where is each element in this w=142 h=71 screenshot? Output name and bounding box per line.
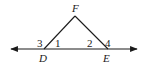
- triangle-diagram: F D E 3 1 2 4: [0, 0, 142, 71]
- angle-label-2: 2: [87, 37, 93, 49]
- vertex-label-e: E: [102, 52, 110, 64]
- angle-label-3: 3: [37, 37, 43, 49]
- angle-label-1: 1: [55, 37, 61, 49]
- vertex-label-d: D: [38, 52, 47, 64]
- vertex-label-f: F: [71, 2, 79, 14]
- angle-label-4: 4: [105, 37, 111, 49]
